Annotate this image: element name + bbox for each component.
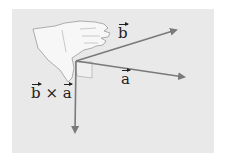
label-b: b	[118, 26, 128, 41]
label-b-cross-a: b × a	[31, 86, 72, 101]
right-hand-icon	[33, 21, 110, 82]
vector-cross-arrow	[75, 61, 76, 132]
cross-product-diagram	[0, 0, 226, 161]
label-a: a	[121, 72, 130, 87]
